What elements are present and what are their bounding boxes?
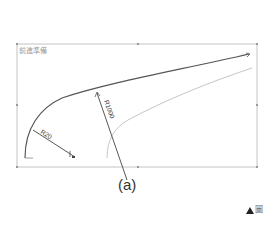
triangle-icon (246, 207, 254, 214)
main-curve (25, 54, 249, 158)
r20-dimension-line (33, 130, 75, 157)
frame (16, 43, 258, 168)
corner-mark: 圖 (246, 206, 263, 214)
corner-mark-text: 圖 (255, 206, 263, 214)
offset-curve (107, 68, 252, 158)
figure-caption: (a) (118, 176, 136, 193)
frame-label: 前進準備 (19, 46, 47, 55)
r20-center-point (72, 156, 75, 158)
